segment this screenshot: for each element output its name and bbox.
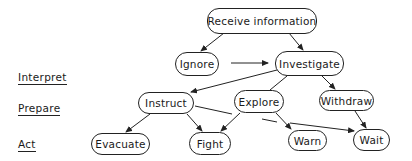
edge-investigate-explore — [270, 76, 287, 90]
edge-receive-investigate — [289, 33, 303, 50]
stage-label-interpret: Interpret — [18, 71, 67, 85]
node-ignore: Ignore — [175, 52, 219, 76]
edge-withdraw-wait — [355, 111, 366, 128]
edge-explore-warn — [276, 113, 291, 129]
edge-instruct-wait — [195, 106, 232, 114]
edge-instruct-evacuate — [126, 114, 150, 132]
node-investigate: Investigate — [275, 51, 344, 76]
stage-label-act: Act — [18, 138, 36, 152]
edge-investigate-withdraw — [322, 76, 335, 89]
node-instruct: Instruct — [138, 92, 194, 114]
node-fight: Fight — [189, 132, 231, 155]
node-explore: Explore — [234, 90, 284, 113]
stage-label-prepare: Prepare — [18, 102, 60, 116]
node-evacuate: Evacuate — [91, 133, 150, 155]
node-warn: Warn — [288, 130, 327, 151]
edge-explore-fight — [221, 113, 240, 131]
node-receive-information: Receive information — [207, 8, 317, 34]
edge-instruct-fight — [187, 114, 202, 131]
node-wait: Wait — [353, 129, 390, 151]
node-withdraw: Withdraw — [319, 90, 374, 111]
edge-receive-ignore — [201, 33, 224, 51]
